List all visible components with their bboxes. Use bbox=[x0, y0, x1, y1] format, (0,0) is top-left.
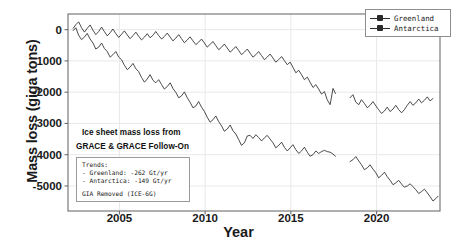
trend-antarctica: - Antarctica: -149 Gt/yr bbox=[82, 177, 185, 185]
annotation-title-line1: Ice sheet mass loss from bbox=[82, 128, 181, 137]
trend-footer: GIA Removed (ICE-6G) bbox=[82, 190, 185, 198]
legend-item-greenland: Greenland bbox=[370, 13, 446, 23]
legend-item-antarctica: Antarctica bbox=[370, 23, 446, 33]
trend-greenland: - Greenland: -262 Gt/yr bbox=[82, 169, 185, 177]
legend-marker-icon bbox=[370, 24, 390, 32]
trend-header: Trends: bbox=[82, 161, 185, 169]
legend: Greenland Antarctica bbox=[365, 9, 451, 37]
annotation-title-line2: GRACE & GRACE Follow-On bbox=[76, 142, 189, 151]
x-tick-label: 2015 bbox=[261, 212, 321, 224]
x-axis-title: Year bbox=[0, 224, 457, 240]
x-axis-title-text: Year bbox=[223, 224, 254, 240]
legend-marker-icon bbox=[370, 14, 390, 22]
legend-label-antarctica: Antarctica bbox=[394, 24, 439, 33]
chart-figure: Mass loss (giga tons) 0-1000-2000-3000-4… bbox=[0, 0, 457, 243]
trend-annotation-box: Trends: - Greenland: -262 Gt/yr - Antarc… bbox=[76, 157, 190, 202]
x-tick-label: 2005 bbox=[89, 212, 149, 224]
x-tick-label: 2010 bbox=[175, 212, 235, 224]
x-tick-label: 2020 bbox=[347, 212, 407, 224]
legend-label-greenland: Greenland bbox=[394, 14, 434, 23]
